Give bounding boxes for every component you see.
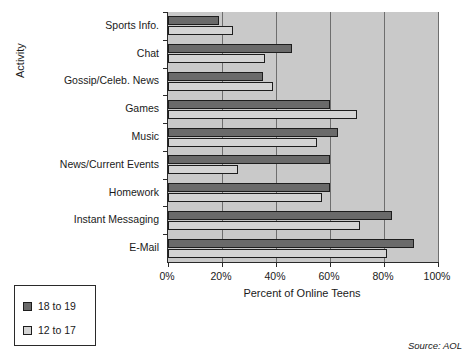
bar — [168, 221, 360, 230]
gridline — [384, 12, 385, 262]
x-tick-label: 100% — [424, 270, 451, 282]
bar — [168, 211, 392, 220]
x-tick-mark — [438, 262, 439, 267]
bar — [168, 72, 263, 81]
legend-label: 12 to 17 — [38, 324, 76, 336]
x-tick-label: 0% — [159, 270, 174, 282]
legend-item-12-to-17: 12 to 17 — [23, 324, 76, 336]
y-tick-mark — [163, 68, 168, 69]
bar — [168, 239, 414, 248]
x-tick-mark — [168, 262, 169, 267]
y-category-label: Instant Messaging — [74, 213, 159, 225]
plot-area — [167, 12, 438, 263]
bar-chart-figure: Activity Percent of Online Teens 18 to 1… — [0, 0, 472, 361]
y-category-label: E-Mail — [129, 241, 159, 253]
y-tick-mark — [163, 40, 168, 41]
bar — [168, 54, 265, 63]
legend-item-18-to-19: 18 to 19 — [23, 300, 76, 312]
x-tick-label: 60% — [318, 270, 339, 282]
x-tick-label: 20% — [210, 270, 231, 282]
bar — [168, 16, 219, 25]
bar — [168, 165, 238, 174]
y-category-label: Homework — [109, 186, 159, 198]
bar — [168, 155, 330, 164]
x-tick-label: 80% — [372, 270, 393, 282]
bar — [168, 128, 338, 137]
bar — [168, 44, 292, 53]
y-category-label: Games — [125, 102, 159, 114]
y-tick-mark — [163, 151, 168, 152]
legend-swatch-icon — [23, 302, 32, 311]
y-tick-mark — [163, 234, 168, 235]
y-category-label: Gossip/Celeb. News — [64, 74, 159, 86]
y-tick-mark — [163, 206, 168, 207]
y-tick-mark — [163, 179, 168, 180]
bar — [168, 82, 273, 91]
legend-swatch-icon — [23, 326, 32, 335]
bar — [168, 193, 322, 202]
x-tick-mark — [384, 262, 385, 267]
gridline — [438, 12, 439, 262]
bar — [168, 138, 317, 147]
x-tick-mark — [276, 262, 277, 267]
x-tick-mark — [222, 262, 223, 267]
bar — [168, 100, 330, 109]
y-category-label: Sports Info. — [105, 19, 159, 31]
bar — [168, 26, 233, 35]
y-category-label: Music — [132, 130, 159, 142]
y-axis-title: Activity — [14, 43, 26, 78]
source-attribution: Source: AOL — [408, 340, 462, 351]
y-tick-mark — [163, 12, 168, 13]
x-tick-mark — [330, 262, 331, 267]
bar — [168, 110, 357, 119]
chart-legend: 18 to 19 12 to 17 — [14, 285, 96, 346]
bar — [168, 183, 330, 192]
y-category-label: Chat — [137, 47, 159, 59]
legend-label: 18 to 19 — [38, 300, 76, 312]
y-tick-mark — [163, 123, 168, 124]
y-tick-mark — [163, 95, 168, 96]
y-category-label: News/Current Events — [60, 158, 159, 170]
x-axis-title: Percent of Online Teens — [167, 287, 437, 299]
bar — [168, 249, 387, 258]
x-tick-label: 40% — [264, 270, 285, 282]
